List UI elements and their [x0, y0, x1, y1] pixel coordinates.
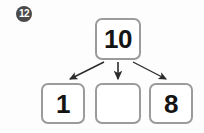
total-box[interactable]: 10: [95, 18, 141, 60]
part-value-1: 1: [56, 91, 70, 117]
part-box-2-blank[interactable]: [95, 83, 141, 124]
worksheet-item: 12 10 1 8: [0, 0, 204, 133]
item-number-badge: 12: [16, 6, 32, 22]
part-box-1[interactable]: 1: [41, 83, 85, 124]
total-value: 10: [104, 26, 132, 52]
arrow-to-part-3: [133, 62, 166, 79]
arrow-to-part-1: [70, 62, 104, 79]
part-box-3[interactable]: 8: [149, 83, 193, 124]
part-value-3: 8: [164, 91, 178, 117]
